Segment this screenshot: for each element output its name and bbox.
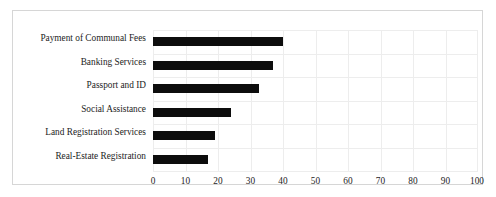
bar-row: Social Assistance (153, 101, 478, 125)
bar (153, 155, 208, 164)
x-tick-label: 50 (311, 176, 320, 186)
x-tick-label: 10 (181, 176, 190, 186)
bar (153, 84, 259, 93)
x-tick-label: 60 (343, 176, 352, 186)
category-label: Passport and ID (87, 79, 146, 91)
bar-row: Banking Services (153, 54, 478, 78)
bar (153, 61, 273, 70)
bar (153, 108, 231, 117)
bar (153, 37, 283, 46)
category-label: Banking Services (81, 56, 146, 68)
chart-figure: Payment of Communal Fees Banking Service… (0, 0, 496, 197)
x-tick-label: 80 (408, 176, 417, 186)
x-tick-label: 90 (441, 176, 450, 186)
bar-row: Real-Estate Registration (153, 148, 478, 172)
x-tick-label: 30 (246, 176, 255, 186)
bar-row: Land Registration Services (153, 124, 478, 148)
plot-area: Payment of Communal Fees Banking Service… (153, 30, 478, 172)
x-tick-label: 0 (151, 176, 156, 186)
category-label: Real-Estate Registration (55, 150, 146, 162)
bar-row: Payment of Communal Fees (153, 30, 478, 54)
bar (153, 131, 215, 140)
x-tick-label: 40 (278, 176, 287, 186)
bar-row: Passport and ID (153, 77, 478, 101)
x-tick-label: 70 (376, 176, 385, 186)
x-tick-label: 20 (213, 176, 222, 186)
category-label: Payment of Communal Fees (40, 32, 146, 44)
category-label: Social Assistance (81, 103, 146, 115)
chart-frame: Payment of Communal Fees Banking Service… (12, 10, 483, 185)
category-label: Land Registration Services (45, 126, 146, 138)
x-tick-label: 100 (470, 176, 484, 186)
